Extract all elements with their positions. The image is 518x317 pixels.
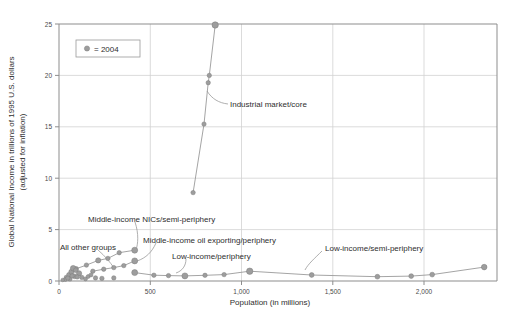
series-line-industrial-market-core (193, 25, 215, 193)
leader-line-middle-income-nics (135, 222, 138, 250)
leader-line-low-income-semi-periphery (305, 251, 322, 270)
x-tick-label: 500 (145, 288, 156, 295)
leader-line-middle-income-oil-exporting (137, 243, 156, 261)
data-point (112, 265, 116, 269)
y-axis-title-line1: Global National Income in trillions of 1… (7, 56, 16, 247)
legend-label: = 2004 (94, 45, 119, 54)
data-point (70, 274, 74, 278)
data-point (212, 22, 218, 28)
x-axis-title: Population (in millions) (230, 298, 311, 307)
leader-line-industrial-market-core (207, 91, 228, 104)
data-point (102, 267, 106, 271)
data-point (112, 276, 116, 280)
series-line-low-income-semi-periphery (250, 267, 485, 277)
data-point (409, 274, 414, 279)
plot-axes (59, 24, 497, 281)
annotation-leader-lines (98, 91, 322, 273)
data-point (247, 268, 253, 274)
data-point (93, 276, 97, 280)
data-point (96, 258, 101, 263)
annotation-industrial-market-core: Industrial market/core (230, 100, 307, 109)
legend: = 2004 (76, 40, 140, 57)
data-point (132, 247, 138, 253)
data-point (89, 273, 93, 277)
data-point (75, 275, 79, 279)
data-point (100, 276, 104, 280)
data-point (207, 73, 211, 77)
data-point (106, 256, 110, 260)
annotation-middle-income-nics-semi-periphery: Middle-income NICs/semi-periphery (88, 215, 215, 224)
data-point (430, 272, 435, 277)
legend-marker-icon (84, 46, 89, 51)
data-point (61, 278, 65, 282)
data-point (66, 276, 70, 280)
x-tick-label: 2,000 (416, 288, 433, 295)
annotation-middle-income-oil-exporting-periphery: Middle-income oil exporting/periphery (143, 236, 276, 245)
data-point (152, 273, 156, 277)
data-point (117, 251, 121, 255)
y-tick-label: 0 (48, 278, 52, 285)
x-tick-label: 1,500 (325, 288, 342, 295)
data-point (132, 258, 138, 264)
scatter-chart: 0 5 10 15 20 25 0 500 1,000 1,500 2,000 (0, 0, 518, 317)
x-tick-label: 1,000 (233, 288, 250, 295)
y-axis-ticks: 0 5 10 15 20 25 (45, 21, 59, 285)
x-axis-ticks: 0 500 1,000 1,500 2,000 (57, 281, 432, 295)
data-point (132, 270, 138, 276)
x-tick-label: 0 (57, 288, 61, 295)
annotation-all-other-groups: All other groups (60, 243, 116, 252)
data-point (191, 190, 195, 194)
y-tick-label: 5 (48, 226, 52, 233)
y-axis-title-line2: (adjusted for inflation) (18, 113, 27, 190)
data-point (203, 273, 207, 277)
data-point (84, 263, 88, 267)
data-point (166, 273, 170, 277)
annotation-low-income-semi-periphery: Low-income/semi-periphery (325, 244, 423, 253)
chart-container: 0 5 10 15 20 25 0 500 1,000 1,500 2,000 (0, 0, 518, 317)
data-point (182, 273, 188, 279)
data-point (122, 263, 126, 267)
grid-lines (59, 24, 497, 281)
y-tick-label: 10 (45, 175, 53, 182)
data-point (375, 274, 380, 279)
data-point (222, 272, 226, 276)
data-point (309, 273, 314, 278)
data-point (202, 122, 206, 126)
y-tick-label: 15 (45, 123, 53, 130)
data-point (481, 264, 487, 270)
y-tick-label: 25 (45, 21, 53, 28)
leader-line-low-income-periphery (176, 259, 186, 273)
annotation-low-income-periphery: Low-income/periphery (172, 252, 251, 261)
data-point (206, 81, 210, 85)
y-tick-label: 20 (45, 72, 53, 79)
